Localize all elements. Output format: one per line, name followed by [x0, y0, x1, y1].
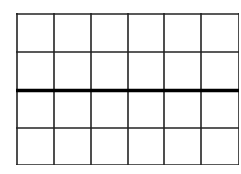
- grid-lines: [16, 13, 239, 165]
- grid-diagram: [16, 13, 239, 165]
